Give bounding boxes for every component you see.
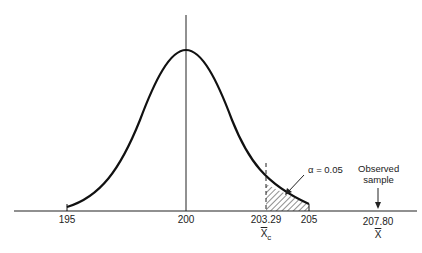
tick-195: 195 [59,214,76,225]
sample-mean-symbol: X [375,229,382,240]
observed-text-line1: Observed [358,163,399,174]
subscript-c: c [267,233,271,242]
tick-207-80: 207.80 [363,216,394,227]
critical-value-label: Xc [261,228,272,242]
observed-text-line2: sample [358,174,399,185]
xbar-symbol: X [261,228,268,239]
alpha-label: α = 0.05 [308,164,343,175]
bell-curve [67,50,309,207]
rejection-region [266,184,309,211]
alpha-arrow [288,175,304,192]
tick-205: 205 [301,214,318,225]
tick-203-29: 203.29 [251,214,282,225]
observed-sample-label: Observed sample [358,163,399,185]
tick-200: 200 [178,214,195,225]
